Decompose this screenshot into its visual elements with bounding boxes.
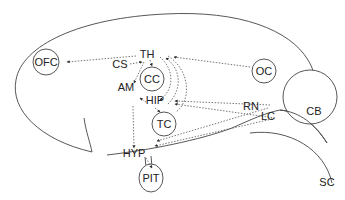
label-sc: SC — [319, 177, 334, 188]
label-rn: RN — [243, 101, 259, 112]
label-cc: CC — [144, 74, 160, 85]
label-lc: LC — [261, 111, 275, 122]
label-cs: CS — [112, 59, 127, 70]
label-th: TH — [140, 49, 155, 60]
label-oc: OC — [256, 66, 273, 77]
label-hyp: HYP — [123, 148, 146, 159]
brain-diagram — [0, 0, 345, 200]
label-cb: CB — [306, 106, 321, 117]
label-tc: TC — [157, 119, 172, 130]
label-hip: HIP — [146, 95, 164, 106]
label-pit: PIT — [142, 173, 159, 184]
label-ofc: OFC — [34, 57, 57, 68]
label-am: AM — [118, 82, 135, 93]
connections — [67, 56, 275, 168]
